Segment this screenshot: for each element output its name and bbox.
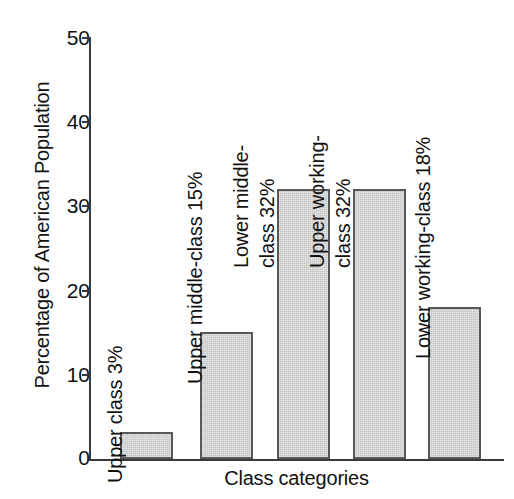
bar-label-upper-middle-class: Upper middle-class 15%: [183, 172, 207, 384]
bar-label-lower-working-class: Lower working-class 18%: [411, 137, 435, 359]
bar-label-upper-class: Upper class 3%: [103, 346, 127, 483]
bar-chart: Percentage of American Population 50 40 …: [0, 0, 514, 499]
plot-area: Upper class 3% Upper middle-class 15% Lo…: [91, 38, 504, 459]
bar-upper-working-class: [353, 189, 406, 459]
y-tick-label-0: 0: [44, 447, 90, 468]
bar-label-upper-working-class-line2: class 32%: [332, 179, 354, 268]
bar-label-upper-working-class: Upper working-class 32%: [304, 58, 356, 268]
bar-lower-working-class: [428, 307, 481, 459]
x-axis-title: Class categories: [89, 468, 504, 488]
bar-label-lower-middle-class: Lower middle-class 32%: [228, 58, 280, 268]
bar-label-lower-middle-class-line2: class 32%: [256, 179, 278, 268]
bar-upper-class: [120, 432, 173, 459]
bar-label-upper-working-class-line1: Upper working-: [306, 135, 328, 268]
bar-upper-middle-class: [200, 332, 253, 459]
bar-label-lower-middle-class-line1: Lower middle-: [230, 145, 252, 268]
x-axis-line: [89, 459, 504, 461]
